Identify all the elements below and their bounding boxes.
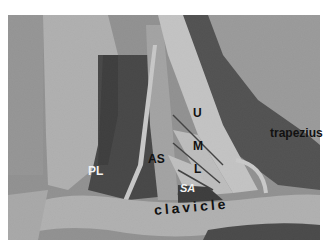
label-subclavian-artery: SA [180, 183, 195, 194]
label-upper-trunk: U [193, 107, 202, 119]
label-trapezius: trapezius [270, 127, 323, 139]
label-lower-trunk: L [194, 163, 201, 175]
label-anterior-scalene: AS [148, 153, 165, 165]
label-phrenic: PL [88, 165, 103, 177]
label-middle-trunk: M [193, 140, 203, 152]
